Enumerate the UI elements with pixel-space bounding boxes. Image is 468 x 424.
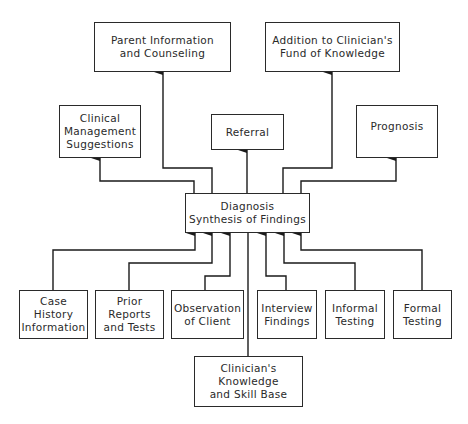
box-diagnosis: Diagnosis Synthesis of Findings (185, 193, 310, 233)
label-informal-testing: Informal Testing (332, 302, 378, 328)
label-observation: Observation of Client (174, 302, 241, 328)
label-formal-testing: Formal Testing (403, 302, 442, 328)
box-informal-testing: Informal Testing (325, 290, 385, 339)
arrow-to-parent (163, 72, 212, 193)
label-diagnosis: Diagnosis Synthesis of Findings (189, 200, 306, 226)
box-formal-testing: Formal Testing (393, 290, 452, 339)
label-addition-to-knowledge: Addition to Clinician's Fund of Knowledg… (272, 34, 392, 60)
box-interview: Interview Findings (257, 290, 317, 339)
label-parent-information: Parent Information and Counseling (111, 34, 214, 60)
box-prognosis: Prognosis (356, 105, 438, 158)
label-referral: Referral (226, 126, 270, 139)
arrow-from-interview (266, 233, 286, 290)
label-prior-reports: Prior Reports and Tests (104, 295, 156, 334)
box-case-history: Case History Information (19, 290, 88, 339)
arrow-from-observation (205, 233, 230, 290)
label-clinical-management: Clinical Management Suggestions (64, 112, 136, 151)
box-prior-reports: Prior Reports and Tests (95, 290, 164, 339)
arrow-to-addition (283, 72, 332, 193)
box-addition-to-knowledge: Addition to Clinician's Fund of Knowledg… (265, 22, 400, 72)
arrow-from-informal (284, 233, 355, 290)
label-prognosis: Prognosis (371, 120, 424, 133)
arrow-from-formal (301, 233, 422, 290)
box-parent-information: Parent Information and Counseling (94, 22, 231, 72)
arrow-from-prior (129, 233, 212, 290)
box-clinical-management: Clinical Management Suggestions (59, 105, 141, 158)
label-clinician-knowledge: Clinician's Knowledge and Skill Base (210, 362, 288, 401)
box-clinician-knowledge: Clinician's Knowledge and Skill Base (194, 356, 303, 407)
box-referral: Referral (211, 114, 284, 150)
arrow-to-prognosis (301, 158, 396, 193)
arrow-from-case (53, 233, 195, 290)
label-case-history: Case History Information (21, 295, 85, 334)
arrow-to-clinical (100, 158, 194, 193)
box-observation: Observation of Client (171, 290, 244, 339)
label-interview: Interview Findings (261, 302, 313, 328)
